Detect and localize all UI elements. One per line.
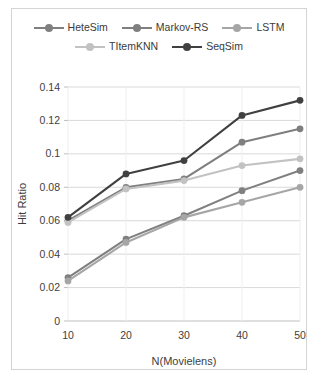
legend-item-markov-rs[interactable]: Markov-RS [122, 22, 209, 33]
legend-item-titemknn[interactable]: TItemKNN [75, 41, 158, 52]
y-tick-label: 0.1 [45, 147, 60, 159]
data-point-marker [297, 125, 304, 132]
legend-label: TItemKNN [109, 41, 158, 52]
legend-marker-icon [75, 41, 105, 52]
x-axis-title: N(Movielens) [152, 355, 217, 367]
y-axis-tick-labels: 00.020.040.060.080.10.120.14 [40, 81, 61, 327]
y-tick-label: 0.08 [40, 181, 61, 193]
plot-area: 00.020.040.060.080.10.120.14 1020304050 … [12, 65, 308, 371]
legend-label: LSTM [256, 22, 284, 33]
legend-dot-icon [233, 24, 241, 32]
chart-card: HeteSimMarkov-RSLSTM TItemKNNSeqSim 00.0… [11, 8, 307, 370]
data-point-marker [239, 162, 246, 169]
data-point-marker [297, 167, 304, 174]
legend-marker-icon [172, 41, 202, 52]
data-point-marker [65, 214, 72, 221]
x-tick-label: 10 [62, 329, 74, 341]
legend-item-lstm[interactable]: LSTM [222, 22, 284, 33]
data-point-marker [123, 171, 130, 178]
y-tick-label: 0.02 [40, 281, 61, 293]
legend-dot-icon [45, 24, 53, 32]
legend-row-2: TItemKNNSeqSim [18, 37, 300, 56]
data-point-marker [297, 155, 304, 162]
data-point-marker [239, 139, 246, 146]
grid-lines [68, 87, 300, 321]
legend-label: Markov-RS [156, 22, 209, 33]
legend-item-hetesim[interactable]: HeteSim [34, 22, 108, 33]
data-point-marker [297, 184, 304, 191]
legend-label: HeteSim [68, 22, 108, 33]
data-point-marker [65, 277, 72, 284]
legend-row-1: HeteSimMarkov-RSLSTM [18, 18, 300, 37]
legend-dot-icon [183, 43, 191, 51]
legend-item-seqsim[interactable]: SeqSim [172, 41, 243, 52]
data-point-marker [239, 199, 246, 206]
y-tick-label: 0 [54, 315, 60, 327]
legend-dot-icon [133, 24, 141, 32]
data-point-marker [297, 97, 304, 104]
data-point-marker [181, 157, 188, 164]
y-tick-label: 0.14 [40, 81, 61, 93]
y-axis-ticks [64, 87, 68, 321]
legend-dot-icon [86, 43, 94, 51]
legend-marker-icon [222, 22, 252, 33]
y-tick-label: 0.12 [40, 114, 61, 126]
legend-label: SeqSim [206, 41, 243, 52]
x-tick-label: 50 [294, 329, 306, 341]
x-tick-label: 40 [236, 329, 248, 341]
y-axis-title: Hit Ratio [16, 183, 28, 225]
data-point-marker [181, 177, 188, 184]
y-tick-label: 0.04 [40, 248, 61, 260]
x-tick-label: 30 [178, 329, 190, 341]
data-point-marker [181, 214, 188, 221]
chart-legend: HeteSimMarkov-RSLSTM TItemKNNSeqSim [12, 18, 306, 56]
y-tick-label: 0.06 [40, 214, 61, 226]
x-axis-tick-labels: 1020304050 [62, 329, 306, 341]
data-point-marker [123, 239, 130, 246]
data-point-marker [239, 112, 246, 119]
legend-marker-icon [34, 22, 64, 33]
data-point-marker [123, 186, 130, 193]
data-point-marker [239, 187, 246, 194]
line-chart-svg: 00.020.040.060.080.10.120.14 1020304050 … [12, 65, 308, 371]
legend-marker-icon [122, 22, 152, 33]
x-tick-label: 20 [120, 329, 132, 341]
